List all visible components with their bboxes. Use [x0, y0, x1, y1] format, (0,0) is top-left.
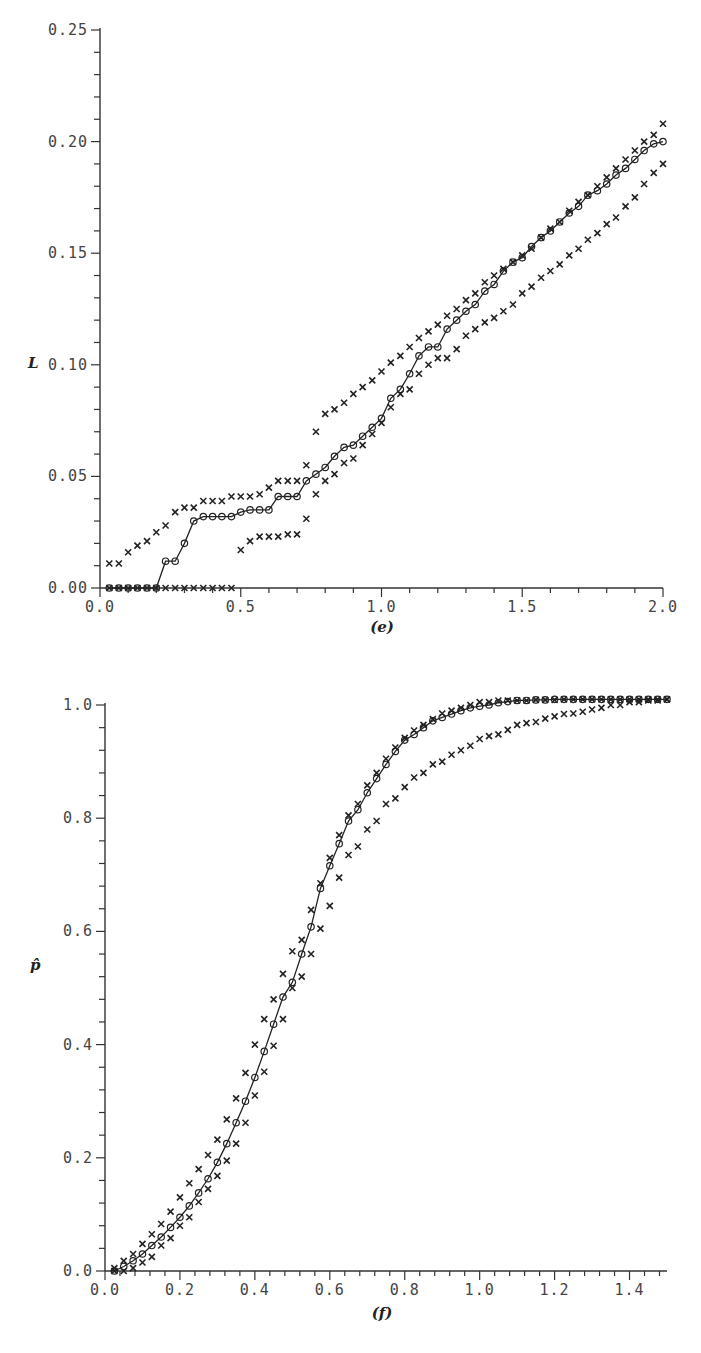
data-point-x: [449, 752, 455, 758]
figure: 0.000.050.100.150.200.250.00.51.01.52.0L…: [0, 0, 701, 1353]
data-point-x: [463, 333, 469, 339]
data-point-x: [163, 523, 169, 529]
series-line: [114, 699, 667, 1271]
data-point-x: [482, 319, 488, 325]
data-point-x: [397, 353, 403, 359]
data-point-x: [454, 306, 460, 312]
x-tick-label: 0.8: [390, 1281, 420, 1299]
data-point-x: [472, 290, 478, 296]
data-point-x: [247, 538, 253, 544]
data-point-x: [360, 442, 366, 448]
panel-label: (e): [370, 618, 394, 636]
data-point-x: [477, 736, 483, 742]
data-point-x: [388, 360, 394, 366]
data-point-x: [491, 273, 497, 279]
data-point-x: [280, 1016, 286, 1022]
data-point-x: [266, 534, 272, 540]
y-tick-label: 0.4: [63, 1036, 93, 1054]
series-l-estimate: [106, 138, 666, 591]
data-point-x: [214, 1137, 220, 1143]
data-point-x: [125, 549, 131, 555]
x-tick-label: 1.0: [366, 598, 396, 616]
x-tick-label: 1.0: [465, 1281, 495, 1299]
data-point-x: [294, 478, 300, 484]
data-point-x: [139, 1260, 145, 1266]
data-point-x: [210, 498, 216, 504]
series-upper-envelope: [106, 121, 666, 567]
data-point-x: [355, 844, 361, 850]
data-point-x: [149, 1231, 155, 1237]
data-point-x: [524, 720, 530, 726]
data-point-x: [172, 509, 178, 515]
data-point-x: [547, 268, 553, 274]
data-point-x: [566, 252, 572, 258]
data-point-x: [243, 1070, 249, 1076]
data-point-x: [181, 505, 187, 511]
data-point-x: [200, 498, 206, 504]
data-point-x: [261, 1016, 267, 1022]
data-point-x: [435, 355, 441, 361]
data-point-x: [444, 355, 450, 361]
data-point-x: [168, 1209, 174, 1215]
data-point-x: [594, 183, 600, 189]
data-point-x: [149, 1254, 155, 1260]
data-point-x: [331, 471, 337, 477]
data-point-x: [313, 491, 319, 497]
data-point-x: [346, 852, 352, 858]
y-tick-label: 0.00: [48, 579, 88, 597]
series-lower-envelope: [106, 161, 666, 591]
data-point-x: [388, 404, 394, 410]
data-point-x: [533, 719, 539, 725]
data-point-x: [158, 1221, 164, 1227]
data-point-x: [491, 315, 497, 321]
data-point-x: [224, 1116, 230, 1122]
data-point-x: [177, 1194, 183, 1200]
data-point-x: [191, 505, 197, 511]
data-point-x: [623, 203, 629, 209]
data-point-x: [374, 818, 380, 824]
data-point-x: [383, 801, 389, 807]
series-upper-envelope: [111, 696, 670, 1271]
data-point-x: [341, 400, 347, 406]
data-point-x: [416, 371, 422, 377]
data-point-x: [299, 974, 305, 980]
data-point-x: [557, 219, 563, 225]
x-tick-label: 0.2: [165, 1281, 195, 1299]
data-point-x: [294, 531, 300, 537]
data-point-x: [153, 529, 159, 535]
data-point-x: [598, 705, 604, 711]
data-point-x: [439, 759, 445, 765]
data-point-x: [134, 543, 140, 549]
data-point-x: [130, 1251, 136, 1257]
data-point-x: [308, 907, 314, 913]
x-tick-label: 0.0: [90, 1281, 120, 1299]
data-point-x: [594, 230, 600, 236]
data-point-x: [486, 733, 492, 739]
data-point-x: [552, 713, 558, 719]
y-axis-title: L: [27, 354, 39, 372]
x-tick-label: 0.5: [226, 598, 256, 616]
x-tick-label: 1.5: [507, 598, 537, 616]
data-point-x: [542, 716, 548, 722]
panel-label: (f): [372, 1304, 393, 1322]
data-point-x: [651, 132, 657, 138]
series-p-hat-estimate: [111, 696, 670, 1274]
data-point-x: [158, 1243, 164, 1249]
data-point-x: [500, 308, 506, 314]
data-point-x: [369, 431, 375, 437]
data-point-x: [538, 235, 544, 241]
data-point-x: [641, 139, 647, 145]
data-point-x: [233, 1095, 239, 1101]
data-point-x: [580, 709, 586, 715]
data-point-x: [585, 237, 591, 243]
data-point-x: [261, 1069, 267, 1075]
data-point-x: [336, 832, 342, 838]
data-point-x: [196, 1166, 202, 1172]
data-point-x: [477, 699, 483, 705]
data-point-x: [454, 346, 460, 352]
x-tick-label: 0.4: [240, 1281, 270, 1299]
data-point-x: [632, 194, 638, 200]
data-point-x: [139, 1241, 145, 1247]
data-point-x: [280, 971, 286, 977]
data-point-x: [186, 1180, 192, 1186]
